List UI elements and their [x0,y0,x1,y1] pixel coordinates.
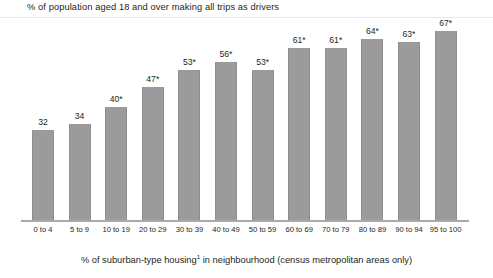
bar-slot: 53* [246,22,280,221]
bar-value-label: 53* [256,57,269,67]
bar-value-label: 64* [366,26,379,36]
bar-slot: 61* [319,22,353,221]
bar-value-label: 40* [110,94,123,104]
bar[interactable]: 53* [252,70,274,221]
bar-slot: 63* [392,22,426,221]
bar-chart-figure: % of population aged 18 and over making … [0,0,493,278]
bar-slot: 56* [209,22,243,221]
bar-value-label: 67* [439,18,452,28]
bar[interactable]: 61* [288,48,310,221]
bar-value-label: 47* [146,74,159,84]
bar-value-label: 32 [38,117,48,127]
bar[interactable]: 61* [325,48,347,221]
x-axis-line [21,220,469,222]
bar-slot: 32 [26,22,60,221]
bar-value-label: 56* [220,49,233,59]
bar-value-label: 61* [293,35,306,45]
x-axis-caption-suffix: in neighbourhood (census metropolitan ar… [200,255,412,265]
bar[interactable]: 56* [215,62,237,221]
x-axis-caption: % of suburban-type housing1 in neighbour… [0,254,493,267]
bar-value-label: 53* [183,57,196,67]
bar-slot: 61* [282,22,316,221]
x-axis-tick-label: 95 to 100 [423,225,469,235]
title-divider [0,17,493,18]
x-axis-caption-prefix: % of suburban-type housing [81,255,197,265]
bar-slot: 53* [172,22,206,221]
plot-area: 323440*47*53*56*53*61*61*64*63*67* [26,22,467,221]
bar-value-label: 63* [403,29,416,39]
bar[interactable]: 53* [178,70,200,221]
bar-value-label: 34 [75,111,85,121]
bar[interactable]: 34 [69,124,91,221]
bar-value-label: 61* [329,35,342,45]
bar-slot: 34 [63,22,97,221]
bar[interactable]: 32 [32,130,54,221]
bar[interactable]: 64* [361,39,383,221]
bar[interactable]: 63* [398,42,420,221]
bar[interactable]: 40* [105,107,127,221]
bar[interactable]: 47* [142,87,164,221]
bar-slot: 40* [99,22,133,221]
bar-slot: 64* [355,22,389,221]
bar-slot: 67* [429,22,463,221]
bar[interactable]: 67* [435,31,457,221]
chart-title: % of population aged 18 and over making … [27,1,279,13]
bar-slot: 47* [136,22,170,221]
